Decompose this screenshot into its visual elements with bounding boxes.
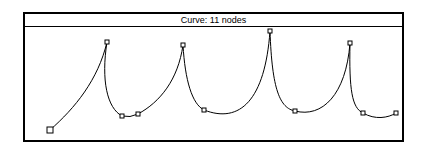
curve-node-handle[interactable] (268, 29, 272, 33)
curve-node-handle[interactable] (293, 109, 297, 113)
curve-path (50, 31, 396, 130)
curve-node-handle[interactable] (136, 112, 140, 116)
curve-node-handle[interactable] (348, 41, 352, 45)
curve-canvas[interactable] (0, 0, 425, 145)
curve-node-handle[interactable] (105, 40, 109, 44)
curve-node-handle[interactable] (47, 127, 53, 133)
curve-node-handle[interactable] (120, 114, 124, 118)
node-handles (47, 29, 398, 133)
curve-node-handle[interactable] (181, 43, 185, 47)
curve-node-handle[interactable] (394, 111, 398, 115)
curve-node-handle[interactable] (202, 108, 206, 112)
curve-node-handle[interactable] (361, 111, 365, 115)
